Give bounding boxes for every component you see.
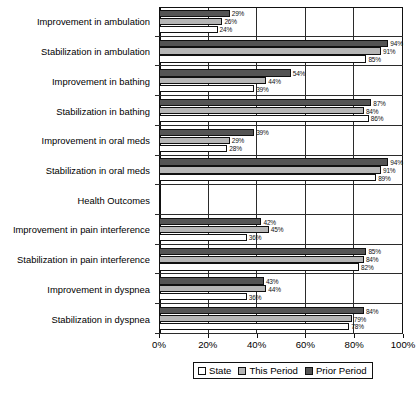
bar-value-label: 29% bbox=[232, 10, 244, 17]
bar-state[interactable] bbox=[159, 145, 227, 152]
bar-line: 36% bbox=[159, 293, 403, 300]
bar-line: 85% bbox=[159, 55, 403, 62]
bar-prior[interactable] bbox=[159, 40, 388, 47]
category-row: 43%44%36% bbox=[159, 274, 403, 304]
bar-prior[interactable] bbox=[159, 218, 261, 225]
category-label: Improvement in oral meds bbox=[0, 126, 155, 156]
bar-group: 43%44%36% bbox=[159, 275, 403, 302]
bar-line: 94% bbox=[159, 158, 403, 165]
bar-group: 54%44%39% bbox=[159, 67, 403, 94]
bar-thisp[interactable] bbox=[159, 226, 269, 233]
bar-state[interactable] bbox=[159, 55, 366, 62]
bar-line: 86% bbox=[159, 115, 403, 122]
category-label: Stabilization in ambulation bbox=[0, 37, 155, 67]
bar-value-label: 87% bbox=[373, 99, 385, 106]
x-axis-tick-label: 40% bbox=[247, 339, 266, 351]
bar-line: 24% bbox=[159, 26, 403, 33]
bar-value-label: 85% bbox=[368, 55, 380, 62]
bar-state[interactable] bbox=[159, 234, 247, 241]
bar-line: 84% bbox=[159, 256, 403, 263]
bar-thisp[interactable] bbox=[159, 47, 381, 54]
bar-value-label: 84% bbox=[366, 256, 378, 263]
bar-value-label: 44% bbox=[268, 77, 280, 84]
bar-prior[interactable] bbox=[159, 129, 254, 136]
bar-line: 87% bbox=[159, 99, 403, 106]
bar-group bbox=[159, 186, 403, 213]
category-row: 94%91%85% bbox=[159, 37, 403, 67]
x-axis-tick-label: 80% bbox=[345, 339, 364, 351]
bar-line: 26% bbox=[159, 18, 403, 25]
category-label: Stabilization in dyspnea bbox=[0, 304, 155, 334]
category-label: Improvement in dyspnea bbox=[0, 274, 155, 304]
bar-line: 29% bbox=[159, 137, 403, 144]
bar-value-label: 89% bbox=[378, 174, 390, 181]
bar-value-label: 24% bbox=[220, 26, 232, 33]
category-label: Improvement in ambulation bbox=[0, 7, 155, 37]
bar-state[interactable] bbox=[159, 323, 349, 330]
bar-thisp[interactable] bbox=[159, 285, 266, 292]
legend-swatch bbox=[305, 367, 313, 375]
bar-group: 94%91%89% bbox=[159, 157, 403, 184]
bar-line: 91% bbox=[159, 166, 403, 173]
bar-state[interactable] bbox=[159, 115, 369, 122]
bar-line: 84% bbox=[159, 107, 403, 114]
legend-swatch bbox=[198, 367, 206, 375]
bar-prior[interactable] bbox=[159, 69, 291, 76]
bar-state[interactable] bbox=[159, 85, 254, 92]
legend-label: This Period bbox=[249, 365, 298, 376]
category-row: 84%79%78% bbox=[159, 304, 403, 334]
x-axis-tick bbox=[159, 334, 160, 338]
x-axis-tick bbox=[403, 334, 404, 338]
category-row: 42%45%36% bbox=[159, 215, 403, 245]
bar-value-label: 54% bbox=[293, 69, 305, 76]
bar-thisp[interactable] bbox=[159, 166, 381, 173]
bar-line bbox=[159, 196, 403, 203]
bar-thisp[interactable] bbox=[159, 77, 266, 84]
bar-value-label: 29% bbox=[232, 137, 244, 144]
bar-thisp[interactable] bbox=[159, 18, 222, 25]
bar-line bbox=[159, 188, 403, 195]
bar-line: 43% bbox=[159, 277, 403, 284]
bar-prior[interactable] bbox=[159, 277, 264, 284]
bar-value-label: 91% bbox=[383, 48, 395, 55]
bar-value-label: 82% bbox=[361, 263, 373, 270]
legend-item[interactable]: This Period bbox=[238, 365, 298, 376]
bar-thisp[interactable] bbox=[159, 256, 364, 263]
bar-state[interactable] bbox=[159, 26, 218, 33]
bar-line: 84% bbox=[159, 307, 403, 314]
x-axis-tick-label: 0% bbox=[152, 339, 166, 351]
bar-line: 44% bbox=[159, 77, 403, 84]
bar-state[interactable] bbox=[159, 174, 376, 181]
bar-prior[interactable] bbox=[159, 307, 364, 314]
bar-prior[interactable] bbox=[159, 10, 230, 17]
bar-thisp[interactable] bbox=[159, 315, 352, 322]
bar-value-label: 44% bbox=[268, 285, 280, 292]
bar-value-label: 39% bbox=[256, 85, 268, 92]
bar-value-label: 85% bbox=[368, 248, 380, 255]
bar-value-label: 26% bbox=[224, 18, 236, 25]
bar-prior[interactable] bbox=[159, 158, 388, 165]
bar-value-label: 94% bbox=[390, 40, 402, 47]
bar-prior[interactable] bbox=[159, 99, 371, 106]
bar-value-label: 86% bbox=[371, 115, 383, 122]
bar-thisp[interactable] bbox=[159, 107, 364, 114]
x-axis-tick bbox=[354, 334, 355, 338]
category-row: 39%29%28% bbox=[159, 126, 403, 156]
bar-state[interactable] bbox=[159, 263, 359, 270]
category-row: 85%84%82% bbox=[159, 245, 403, 275]
bar-line: 89% bbox=[159, 174, 403, 181]
bar-rows: 29%26%24%94%91%85%54%44%39%87%84%86%39%2… bbox=[159, 7, 403, 334]
legend-item[interactable]: State bbox=[198, 365, 231, 376]
bar-state[interactable] bbox=[159, 293, 247, 300]
bar-line: 94% bbox=[159, 40, 403, 47]
bar-group: 94%91%85% bbox=[159, 38, 403, 65]
bar-thisp[interactable] bbox=[159, 137, 230, 144]
bar-value-label: 43% bbox=[266, 277, 278, 284]
bar-prior[interactable] bbox=[159, 248, 366, 255]
legend-item[interactable]: Prior Period bbox=[305, 365, 367, 376]
bar-line: 85% bbox=[159, 248, 403, 255]
bar-line: 28% bbox=[159, 145, 403, 152]
category-row: 54%44%39% bbox=[159, 66, 403, 96]
bar-line: 44% bbox=[159, 285, 403, 292]
bar-group: 39%29%28% bbox=[159, 127, 403, 154]
